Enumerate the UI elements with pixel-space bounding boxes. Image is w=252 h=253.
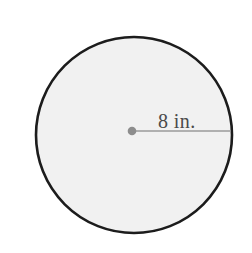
center-point-dot (128, 127, 137, 136)
radius-measurement-label: 8 in. (158, 110, 196, 132)
circle-diagram-svg: 8 in. (0, 0, 252, 253)
geometry-figure-canvas: 8 in. (0, 0, 252, 253)
shaded-circle (36, 37, 232, 233)
